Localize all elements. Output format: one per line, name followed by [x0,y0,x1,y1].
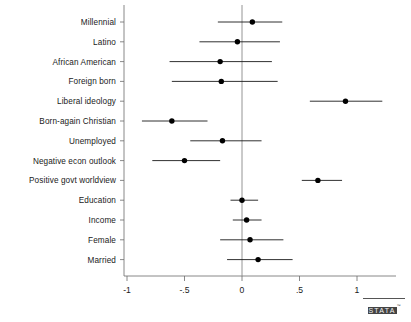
plot-area: MillennialLatinoAfrican AmericanForeign … [0,0,411,322]
point-estimate-marker [247,237,252,242]
point-estimate-marker [244,217,249,222]
category-label: Income [89,216,117,225]
category-label: Negative econ outlook [33,157,117,166]
logo-rule [363,298,405,299]
point-estimate-marker [219,79,224,84]
category-label: Married [88,256,117,265]
category-label: Unemployed [69,137,116,146]
coefficient-plot: MillennialLatinoAfrican AmericanForeign … [0,0,411,322]
confidence-intervals-group [142,22,382,260]
point-estimate-marker [239,198,244,203]
x-tick-label: 1 [355,285,360,295]
category-label: Education [79,196,117,205]
category-label: Foreign born [68,77,116,86]
point-estimate-marker [217,59,222,64]
point-estimate-marker [315,178,320,183]
trademark-symbol: ™ [397,303,401,308]
category-label: Positive govt worldview [29,176,116,185]
x-tick-label: .5 [296,285,303,295]
point-estimate-marker [343,99,348,104]
stata-logo-text: STATA [368,307,397,314]
point-estimate-marker [255,257,260,262]
point-estimate-marker [220,138,225,143]
category-label: Millennial [81,18,116,27]
x-tick-labels-group: -1-.50.51 [123,285,359,295]
category-label: Female [88,236,116,245]
stata-logo: STATA™ [363,298,405,316]
category-label: Latino [93,38,116,47]
x-tick-label: -1 [123,285,131,295]
category-labels-group: MillennialLatinoAfrican AmericanForeign … [29,18,117,265]
category-label: Liberal ideology [57,97,117,106]
category-label: African American [53,58,117,67]
point-estimate-marker [235,39,240,44]
point-estimate-marker [169,118,174,123]
x-tick-label: 0 [240,285,245,295]
category-label: Born-again Christian [39,117,116,126]
point-estimate-marker [250,19,255,24]
x-tick-label: -.5 [179,285,189,295]
point-estimate-marker [182,158,187,163]
